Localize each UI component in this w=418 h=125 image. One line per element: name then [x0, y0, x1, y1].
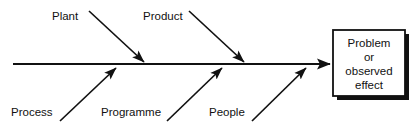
bone-label-plant: Plant [52, 10, 79, 22]
effect-box-line-1: Problem [348, 37, 391, 49]
bone-label-process: Process [11, 106, 53, 118]
effect-box-line-3: observed [345, 65, 392, 77]
bone-line-people [252, 68, 306, 121]
bone-line-plant [89, 11, 144, 62]
bone-label-people: People [209, 106, 245, 118]
fishbone-canvas: Plant Product Process Programme People P… [0, 0, 418, 125]
fishbone-diagram: Plant Product Process Programme People P… [0, 0, 418, 125]
effect-box-line-4: effect [355, 79, 384, 91]
bone-label-product: Product [143, 10, 183, 22]
bone-label-programme: Programme [101, 106, 161, 118]
bone-line-product [189, 11, 244, 62]
effect-box-line-2: or [364, 51, 374, 63]
